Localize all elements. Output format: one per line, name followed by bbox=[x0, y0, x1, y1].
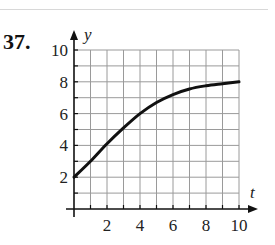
grid bbox=[74, 50, 239, 209]
y-axis-arrow-icon bbox=[70, 30, 78, 40]
x-tick-label: 4 bbox=[136, 216, 145, 235]
y-axis-label: y bbox=[82, 25, 92, 44]
chart: 246810246810 t y bbox=[0, 0, 275, 245]
x-axis-label: t bbox=[250, 183, 256, 202]
x-tick-label: 8 bbox=[202, 216, 211, 235]
y-tick-label: 8 bbox=[60, 73, 69, 92]
y-tick-label: 6 bbox=[60, 105, 69, 124]
y-tick-label: 2 bbox=[60, 168, 69, 187]
x-tick-label: 10 bbox=[231, 216, 248, 235]
x-axis-arrow-icon bbox=[248, 205, 258, 213]
y-tick-label: 4 bbox=[60, 136, 69, 155]
y-tick-label: 10 bbox=[51, 41, 68, 60]
axes bbox=[66, 30, 258, 217]
tick-labels: 246810246810 bbox=[51, 41, 248, 235]
x-tick-label: 6 bbox=[169, 216, 178, 235]
x-tick-label: 2 bbox=[103, 216, 112, 235]
